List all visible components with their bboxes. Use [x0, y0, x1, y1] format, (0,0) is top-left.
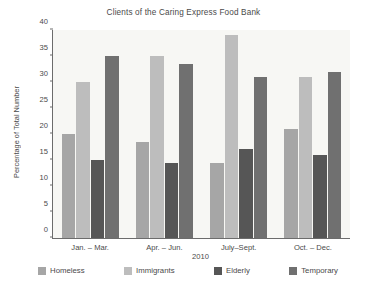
bar-homeless[interactable] — [62, 134, 76, 238]
y-axis-tick-mark — [50, 159, 53, 160]
x-axis-tick-label: Oct. – Dec. — [294, 243, 332, 252]
bar-temporary[interactable] — [254, 77, 268, 238]
y-axis-tick-label: 0 — [26, 225, 48, 234]
y-axis-tick-label: 30 — [26, 69, 48, 78]
legend-item-elderly[interactable]: Elderly — [214, 266, 250, 275]
y-axis-tick-label: 20 — [26, 121, 48, 130]
bar-group: Jan. – Mar. — [62, 30, 119, 238]
legend-swatch-immigrants — [124, 267, 132, 275]
chart-figure: Clients of the Caring Express Food Bank … — [0, 0, 367, 294]
bar-elderly[interactable] — [165, 163, 179, 238]
x-axis-tick-label: Jan. – Mar. — [71, 243, 109, 252]
y-axis-tick-label: 15 — [26, 147, 48, 156]
legend-label: Elderly — [226, 266, 250, 275]
y-axis-tick-mark — [50, 211, 53, 212]
legend-item-immigrants[interactable]: Immigrants — [124, 266, 175, 275]
legend-swatch-elderly — [214, 267, 222, 275]
y-axis-tick-label: 10 — [26, 173, 48, 182]
bar-homeless[interactable] — [136, 142, 150, 238]
y-axis-tick-mark — [50, 133, 53, 134]
y-axis-tick-label: 5 — [26, 199, 48, 208]
bar-elderly[interactable] — [91, 160, 105, 238]
chart-legend: HomelessImmigrantsElderlyTemporary — [38, 266, 338, 275]
y-axis-title: Percentage of Total Number — [10, 62, 24, 202]
legend-label: Immigrants — [136, 266, 175, 275]
bar-homeless[interactable] — [284, 129, 298, 238]
y-axis-tick-label: 40 — [26, 17, 48, 26]
bar-temporary[interactable] — [105, 56, 119, 238]
legend-item-temporary[interactable]: Temporary — [289, 266, 338, 275]
chart-title: Clients of the Caring Express Food Bank — [0, 8, 367, 17]
bar-group: July–Sept. — [210, 30, 267, 238]
y-axis-tick-mark — [50, 185, 53, 186]
y-axis-tick-mark — [50, 107, 53, 108]
y-axis-tick-label: 25 — [26, 95, 48, 104]
bar-homeless[interactable] — [210, 163, 224, 238]
y-axis-tick-mark — [50, 29, 53, 30]
bar-elderly[interactable] — [239, 149, 253, 238]
x-axis-tick-label: Apr. – Jun. — [146, 243, 182, 252]
bar-elderly[interactable] — [313, 155, 327, 238]
x-axis-title: 2010 — [52, 252, 349, 261]
bar-group: Oct. – Dec. — [284, 30, 341, 238]
bar-immigrants[interactable] — [150, 56, 164, 238]
bar-immigrants[interactable] — [76, 82, 90, 238]
bar-temporary[interactable] — [328, 72, 342, 238]
y-axis-tick-mark — [50, 81, 53, 82]
legend-swatch-homeless — [38, 267, 46, 275]
y-axis-tick-mark — [50, 55, 53, 56]
bar-temporary[interactable] — [179, 64, 193, 238]
bar-group: Apr. – Jun. — [136, 30, 193, 238]
plot-area: 0510152025303540 Jan. – Mar.Apr. – Jun.J… — [52, 30, 350, 239]
bar-immigrants[interactable] — [225, 35, 239, 238]
x-axis-tick-label: July–Sept. — [221, 243, 256, 252]
legend-item-homeless[interactable]: Homeless — [38, 266, 85, 275]
legend-label: Temporary — [301, 266, 338, 275]
legend-swatch-temporary — [289, 267, 297, 275]
y-axis-tick-mark — [50, 237, 53, 238]
y-axis-tick-label: 35 — [26, 43, 48, 52]
bar-immigrants[interactable] — [299, 77, 313, 238]
legend-label: Homeless — [50, 266, 85, 275]
